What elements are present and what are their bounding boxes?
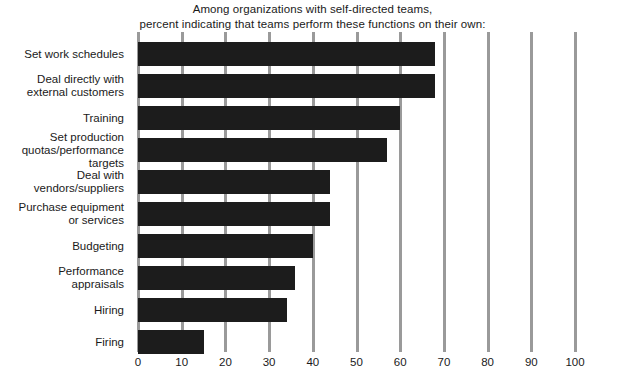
category-axis-labels: Set work schedulesDeal directly with ext… — [0, 38, 130, 352]
bar — [138, 298, 287, 322]
bar-row — [138, 262, 575, 294]
bar — [138, 170, 330, 194]
bar — [138, 202, 330, 226]
category-label: Firing — [95, 336, 124, 349]
bar — [138, 266, 295, 290]
category-label-row: Set production quotas/performance target… — [0, 134, 130, 166]
chart-title-line-1: Among organizations with self-directed t… — [0, 2, 625, 17]
bar-row — [138, 230, 575, 262]
category-label-row: Performance appraisals — [0, 262, 130, 294]
category-label-row: Firing — [0, 326, 130, 358]
bar — [138, 234, 313, 258]
plot-area — [138, 32, 575, 352]
x-tick-label-0: 0 — [118, 356, 158, 368]
category-label-row: Set work schedules — [0, 38, 130, 70]
bar-chart: Among organizations with self-directed t… — [0, 0, 625, 389]
bar-row — [138, 326, 575, 358]
category-label: Training — [83, 112, 124, 125]
bar-row — [138, 38, 575, 70]
category-label: Performance appraisals — [58, 265, 124, 291]
x-tick-label-70: 70 — [424, 356, 464, 368]
x-tick-label-100: 100 — [555, 356, 595, 368]
bar-row — [138, 102, 575, 134]
chart-title: Among organizations with self-directed t… — [0, 2, 625, 32]
bar — [138, 106, 400, 130]
category-label: Set work schedules — [24, 48, 124, 61]
category-label: Hiring — [94, 304, 124, 317]
x-tick-label-60: 60 — [380, 356, 420, 368]
category-label-row: Deal with vendors/suppliers — [0, 166, 130, 198]
bar-row — [138, 166, 575, 198]
bar — [138, 330, 204, 354]
bar-row — [138, 294, 575, 326]
x-tick-label-50: 50 — [337, 356, 377, 368]
category-label-row: Budgeting — [0, 230, 130, 262]
bar — [138, 42, 435, 66]
category-label: Deal directly with external customers — [27, 73, 124, 99]
chart-title-line-2: percent indicating that teams perform th… — [0, 17, 625, 32]
bar-series — [138, 38, 575, 352]
x-tick-label-40: 40 — [293, 356, 333, 368]
bar-row — [138, 70, 575, 102]
category-label: Budgeting — [72, 240, 124, 253]
category-label: Purchase equipment or services — [19, 201, 124, 227]
category-label-row: Deal directly with external customers — [0, 70, 130, 102]
category-label-row: Hiring — [0, 294, 130, 326]
category-label-row: Purchase equipment or services — [0, 198, 130, 230]
x-tick-label-20: 20 — [205, 356, 245, 368]
bar — [138, 74, 435, 98]
category-label-row: Training — [0, 102, 130, 134]
category-label: Set production quotas/performance target… — [22, 131, 124, 170]
x-tick-label-30: 30 — [249, 356, 289, 368]
bar-row — [138, 198, 575, 230]
x-tick-label-90: 90 — [511, 356, 551, 368]
bar-row — [138, 134, 575, 166]
x-tick-label-10: 10 — [162, 356, 202, 368]
category-label: Deal with vendors/suppliers — [34, 169, 124, 195]
x-axis-tick-labels: 0102030405060708090100 — [0, 356, 625, 376]
x-tick-label-80: 80 — [468, 356, 508, 368]
bar — [138, 138, 387, 162]
